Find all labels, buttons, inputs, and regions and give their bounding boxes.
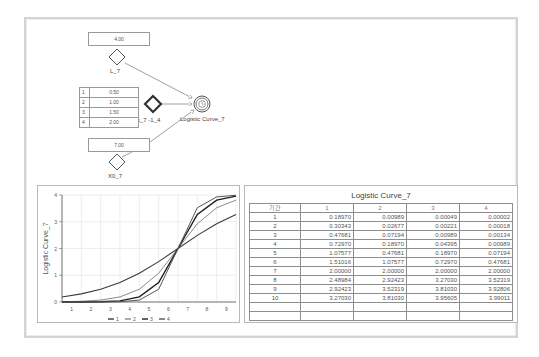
k-row-value[interactable]: 1.00 <box>90 98 139 108</box>
table-row: 20.303430.026770.002210.00018 <box>250 222 513 231</box>
series-line-3 <box>62 196 236 302</box>
x0-value-input[interactable]: 7.00 <box>88 138 150 152</box>
header-period: 기간 <box>250 204 301 213</box>
period-cell: 8 <box>250 276 301 285</box>
x-tick-label: 9 <box>225 306 228 312</box>
y-tick-label: 4 <box>54 192 57 198</box>
y-tick-label: 1 <box>54 272 57 278</box>
value-cell <box>460 312 513 321</box>
x-tick-label: 3 <box>109 306 112 312</box>
k-row-index: 1 <box>80 88 90 98</box>
value-cell: 3.92806 <box>460 285 513 294</box>
table-row: 82.489842.924233.270303.52319 <box>250 276 513 285</box>
value-cell: 3.52319 <box>460 276 513 285</box>
k-row-index: 3 <box>80 108 90 118</box>
period-cell: 9 <box>250 285 301 294</box>
value-cell: 0.18970 <box>301 213 354 222</box>
value-cell <box>301 312 354 321</box>
header-series-1: 1 <box>301 204 354 213</box>
value-cell: 0.04395 <box>407 240 460 249</box>
table-row: 51.075770.476810.189700.07194 <box>250 249 513 258</box>
clock-icon <box>199 101 206 108</box>
period-cell: 10 <box>250 294 301 303</box>
logistic-curve-node-label: Logistic Curve_7 <box>180 116 225 122</box>
k-row-value[interactable]: 0.50 <box>90 88 139 98</box>
period-cell: 6 <box>250 258 301 267</box>
value-cell <box>354 312 407 321</box>
x-tick-label: 6 <box>167 306 170 312</box>
series-line-1 <box>62 215 236 297</box>
table-row: 10.189700.009890.000490.00002 <box>250 213 513 222</box>
y-axis-label: Logistic Curve_7 <box>42 222 50 274</box>
diamond-variable-icon[interactable] <box>108 48 126 66</box>
l7-value-input[interactable]: 4.00 <box>88 32 150 46</box>
legend-label: 2 <box>133 316 136 322</box>
table-row: 61.510161.075770.729700.47681 <box>250 258 513 267</box>
value-cell: 0.00989 <box>460 240 513 249</box>
value-cell: 1.07577 <box>354 258 407 267</box>
value-cell: 0.47681 <box>301 231 354 240</box>
value-cell: 0.47681 <box>354 249 407 258</box>
period-cell: 1 <box>250 213 301 222</box>
x-tick-label: 1 <box>70 306 73 312</box>
value-cell: 3.95605 <box>407 294 460 303</box>
array-variable-diamond-icon[interactable] <box>143 94 163 114</box>
value-cell: 0.00049 <box>407 213 460 222</box>
k-array-row: 10.50 <box>80 88 139 98</box>
line-chart: 01234123456789Logistic Curve_71234 <box>38 186 241 324</box>
result-table-header: 기간 1 2 3 4 <box>250 204 513 213</box>
table-row <box>250 303 513 312</box>
value-cell <box>301 303 354 312</box>
k-row-index: 2 <box>80 98 90 108</box>
table-row <box>250 312 513 321</box>
period-cell: 2 <box>250 222 301 231</box>
period-cell: 3 <box>250 231 301 240</box>
logistic-curve-node[interactable] <box>192 94 212 114</box>
value-cell: 3.52319 <box>354 285 407 294</box>
y-tick-label: 2 <box>54 246 57 252</box>
table-row: 92.924233.523193.810303.92806 <box>250 285 513 294</box>
value-cell: 2.00000 <box>407 267 460 276</box>
result-table-panel: Logistic Curve_7 기간 1 2 3 4 10.189700.00… <box>244 185 518 323</box>
value-cell <box>407 303 460 312</box>
value-cell: 3.27030 <box>407 276 460 285</box>
value-cell: 2.92423 <box>354 276 407 285</box>
x0-variable-label: X0_7 <box>108 173 122 179</box>
k-array-row: 31.50 <box>80 108 139 118</box>
value-cell: 0.72970 <box>407 258 460 267</box>
period-cell: 7 <box>250 267 301 276</box>
value-cell: 0.00018 <box>460 222 513 231</box>
value-cell: 2.00000 <box>301 267 354 276</box>
value-cell <box>407 312 460 321</box>
value-cell: 1.07577 <box>301 249 354 258</box>
k-array-table[interactable]: 10.50 21.00 31.50 42.00 <box>79 87 139 128</box>
value-cell: 3.99011 <box>460 294 513 303</box>
l7-variable-label: L_7 <box>110 68 120 74</box>
value-cell: 0.72970 <box>301 240 354 249</box>
table-row: 30.476810.071940.009890.00134 <box>250 231 513 240</box>
table-row: 103.270303.810303.956053.99011 <box>250 294 513 303</box>
y-tick-label: 3 <box>54 219 57 225</box>
value-cell: 0.47681 <box>460 258 513 267</box>
header-series-2: 2 <box>354 204 407 213</box>
diamond-variable-icon[interactable] <box>108 153 126 171</box>
k-row-index: 4 <box>80 118 90 128</box>
x-tick-label: 5 <box>148 306 151 312</box>
value-cell: 0.00989 <box>407 231 460 240</box>
value-cell: 0.00221 <box>407 222 460 231</box>
table-row: 40.729700.189700.043950.00989 <box>250 240 513 249</box>
period-cell: 4 <box>250 240 301 249</box>
series-line-2 <box>62 200 236 302</box>
x-tick-label: 2 <box>90 306 93 312</box>
value-cell: 3.81030 <box>407 285 460 294</box>
value-cell: 0.00989 <box>354 213 407 222</box>
value-cell <box>354 303 407 312</box>
x-tick-label: 7 <box>186 306 189 312</box>
header-series-3: 3 <box>407 204 460 213</box>
value-cell: 0.02677 <box>354 222 407 231</box>
value-cell: 0.18970 <box>354 240 407 249</box>
value-cell: 0.30343 <box>301 222 354 231</box>
k-row-value[interactable]: 2.00 <box>90 118 139 128</box>
k-row-value[interactable]: 1.50 <box>90 108 139 118</box>
legend-label: 3 <box>150 316 153 322</box>
